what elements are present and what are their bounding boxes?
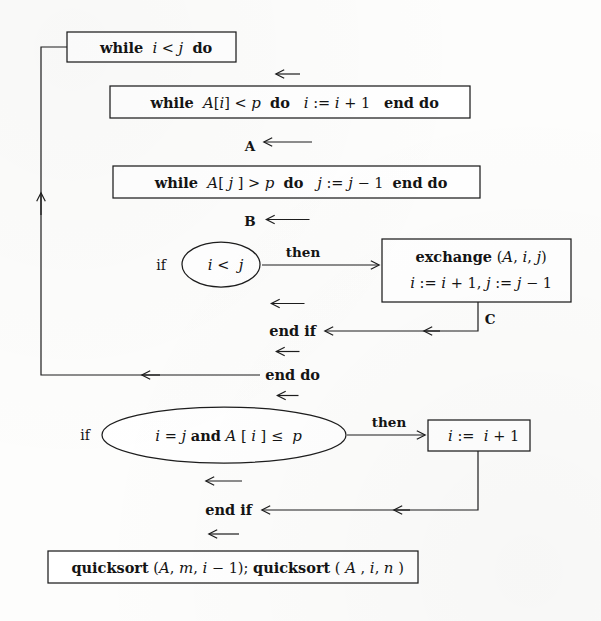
node-quicksort-calls-label: quicksort (A, m, i − 1); quicksort ( A ,… <box>39 559 427 577</box>
edge-tag-c: C <box>485 311 496 327</box>
node-incr-i-label: i := i + 1 <box>416 427 543 445</box>
edge-label-then-lower: then <box>372 414 407 430</box>
node-while-i-lt-j-label: while i < j do <box>68 39 236 57</box>
node-end-do: end do <box>233 366 343 383</box>
if-keyword-upper: if <box>156 257 167 273</box>
node-cond-i-eq-j-label: i = j and A [ i ] ≤ p <box>123 427 325 445</box>
node-cond-i-lt-j-label: i < j <box>176 256 267 274</box>
node-while-A-i-lt-p-label: while A[i] < p do i := i + 1 end do <box>118 94 462 112</box>
node-exchange-line2: i := i + 1, j := j − 1 <box>378 274 575 292</box>
edge-tag-b: B <box>244 213 255 229</box>
edge-exchange-to-endif-upper <box>325 302 478 331</box>
if-keyword-lower: if <box>80 427 91 443</box>
edge-label-then-upper: then <box>286 244 321 260</box>
node-exchange-line1: exchange (A, i, j) <box>383 248 570 266</box>
node-end-if-upper: end if <box>237 322 339 339</box>
flowchart-svg: while i < j do while A[i] < p do i := i … <box>0 0 601 621</box>
node-end-if-lower: end if <box>173 501 275 518</box>
diagram-canvas: while i < j do while A[i] < p do i := i … <box>0 0 601 621</box>
edge-tag-a: A <box>244 138 256 154</box>
node-while-A-j-gt-p-label: while A[ j ] > p do j := j − 1 end do <box>123 174 471 192</box>
edge-incri-to-endif-lower <box>262 451 478 510</box>
